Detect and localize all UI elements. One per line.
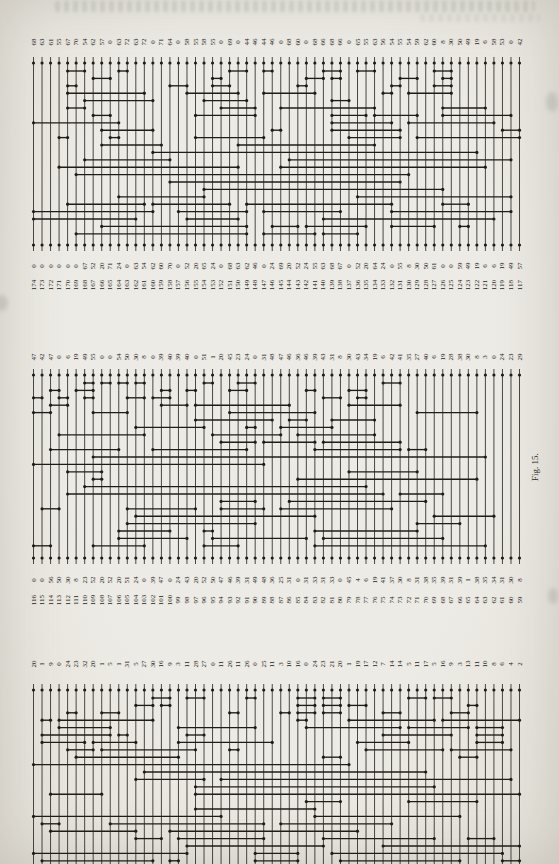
wire-bottom-value: 24 <box>175 577 182 584</box>
wire-top-label: 0 <box>107 355 114 359</box>
wire-top-label: 27 <box>201 661 208 668</box>
wire-bottom-value: 25 <box>277 577 284 584</box>
wire-bottom-value: 55 <box>311 263 318 270</box>
wire-index-label: 78 <box>354 597 361 604</box>
wire-index-label: 155 <box>192 280 199 291</box>
wire-top-label: 67 <box>64 39 71 46</box>
wire-top-label: 68 <box>286 39 293 46</box>
wire-index-label: 141 <box>311 280 318 291</box>
wire-top-label: 30 <box>132 354 139 361</box>
wire-index-label: 90 <box>252 597 259 604</box>
wire-top-label: 44 <box>260 39 267 46</box>
wire-top-label: 16 <box>294 661 301 668</box>
wire-bottom-value: 24 <box>380 263 387 270</box>
wire-index-label: 127 <box>431 280 438 291</box>
wire-index-label: 115 <box>39 595 46 605</box>
wire-top-label: 24 <box>311 661 318 668</box>
wire-bottom-value: 0 <box>337 578 344 582</box>
wire-index-label: 121 <box>482 280 489 291</box>
wire-top-label: 31 <box>124 661 131 668</box>
wire-index-label: 66 <box>456 597 463 604</box>
wire-top-label: 31 <box>260 354 267 361</box>
wire-bottom-value: 46 <box>226 577 233 584</box>
wire-top-label: 10 <box>286 661 293 668</box>
wire-top-label: 0 <box>149 40 156 44</box>
wire-top-label: 0 <box>107 40 114 44</box>
wire-bottom-value: 63 <box>320 263 327 270</box>
wire-top-label: 62 <box>90 39 97 46</box>
wire-bottom-value: 20 <box>192 263 199 270</box>
wire-top-label: 0 <box>507 40 514 44</box>
wire-top-label: 0 <box>56 662 63 666</box>
wire-bottom-value: 6 <box>482 264 489 268</box>
wire-top-label: 0 <box>235 40 242 44</box>
wire-bottom-value: 20 <box>286 263 293 270</box>
wire-index-label: 69 <box>431 597 438 604</box>
wire-top-label: 64 <box>166 39 173 46</box>
wire-top-label: 24 <box>243 354 250 361</box>
wire-index-label: 126 <box>439 280 446 291</box>
wire-top-label: 0 <box>192 355 199 359</box>
wire-top-label: 11 <box>235 661 242 668</box>
wire-top-label: 47 <box>47 354 54 361</box>
wire-bottom-value: 68 <box>328 263 335 270</box>
wire-index-label: 154 <box>201 280 208 291</box>
wire-top-label: 55 <box>209 39 216 46</box>
wire-top-label: 26 <box>226 661 233 668</box>
wire-index-label: 100 <box>166 595 173 606</box>
wire-top-label: 72 <box>124 39 131 46</box>
wire-top-label: 40 <box>166 354 173 361</box>
wire-index-label: 64 <box>473 597 480 604</box>
wire-bottom-value: 23 <box>81 577 88 584</box>
wire-top-label: 28 <box>192 661 199 668</box>
wire-top-label: 39 <box>158 354 165 361</box>
wire-top-label: 9 <box>47 662 54 666</box>
wire-top-label: 3 <box>482 355 489 359</box>
wire-bottom-value: 20 <box>363 263 370 270</box>
wire-index-label: 95 <box>209 597 216 604</box>
wire-bottom-value: 67 <box>337 263 344 270</box>
wire-top-label: 19 <box>473 39 480 46</box>
wire-top-label: 49 <box>465 39 472 46</box>
wire-top-label: 27 <box>141 661 148 668</box>
wire-index-label: 77 <box>363 597 370 604</box>
wire-top-label: 9 <box>166 662 173 666</box>
wire-bottom-value: 57 <box>516 263 523 270</box>
wire-bottom-value: 20 <box>98 577 105 584</box>
wire-top-label: 27 <box>414 354 421 361</box>
wire-top-label: 38 <box>456 354 463 361</box>
wire-bottom-value: 30 <box>414 263 421 270</box>
wire-bottom-value: 59 <box>456 263 463 270</box>
wire-top-label: 5 <box>107 662 114 666</box>
wire-top-label: 23 <box>235 354 242 361</box>
wire-bottom-value: 0 <box>73 264 80 268</box>
wire-index-label: 137 <box>345 280 352 291</box>
wire-index-label: 102 <box>149 595 156 606</box>
wire-index-label: 139 <box>328 280 335 291</box>
wire-top-label: 62 <box>422 39 429 46</box>
wire-index-label: 119 <box>499 280 506 290</box>
comparator-network-diagram <box>0 0 559 864</box>
wire-top-label: 54 <box>81 39 88 46</box>
wire-top-label: 70 <box>73 39 80 46</box>
wire-top-label: 14 <box>397 661 404 668</box>
wire-top-label: 42 <box>516 39 523 46</box>
wire-index-label: 138 <box>337 280 344 291</box>
wire-index-label: 129 <box>414 280 421 291</box>
wire-index-label: 60 <box>507 597 514 604</box>
wire-index-label: 135 <box>363 280 370 291</box>
wire-index-label: 120 <box>490 280 497 291</box>
wire-top-label: 23 <box>73 661 80 668</box>
wire-bottom-value: 50 <box>56 577 63 584</box>
wire-top-label: 54 <box>405 39 412 46</box>
scanned-page: Fig. 15. 6863615567705462570637263720716… <box>0 0 559 864</box>
wire-index-label: 101 <box>158 595 165 606</box>
wire-top-label: 6 <box>482 40 489 44</box>
wire-bottom-value: 37 <box>388 577 395 584</box>
wire-index-label: 125 <box>448 280 455 291</box>
wire-bottom-value: 63 <box>235 263 242 270</box>
wire-index-label: 118 <box>507 280 514 290</box>
wire-top-label: 46 <box>252 39 259 46</box>
wire-top-label: 17 <box>422 661 429 668</box>
wire-bottom-value: 39 <box>439 577 446 584</box>
